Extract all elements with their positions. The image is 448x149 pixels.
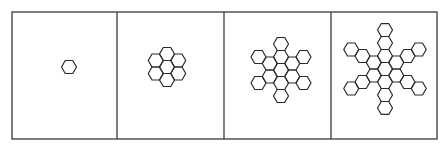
hexagon-cell <box>274 77 289 90</box>
hexagon-cell <box>411 82 426 95</box>
panel-stage-3 <box>251 38 311 103</box>
panel-stage-1 <box>62 61 77 74</box>
hexagon-cell <box>378 88 393 101</box>
hexagon-cell <box>160 74 175 87</box>
hexagon-cell <box>148 54 163 67</box>
hexagon-growth-figure <box>0 0 448 149</box>
panel-stage-2 <box>148 48 186 87</box>
hexagon-cell <box>296 77 311 90</box>
hexagon-cell <box>344 43 359 56</box>
hexagon-cell <box>411 43 426 56</box>
hexagon-cell <box>296 51 311 64</box>
panel-stage-4 <box>344 24 427 115</box>
hexagon-cell <box>344 82 359 95</box>
hexagon-cell <box>274 38 289 51</box>
hexagon-cell <box>378 24 393 37</box>
hexagon-cell <box>274 89 289 102</box>
hexagon-cell <box>62 61 77 74</box>
hexagon-cell <box>378 37 393 50</box>
hexagon-cell <box>378 76 393 89</box>
hexagon-cell <box>378 101 393 114</box>
hexagon-cell <box>251 77 266 90</box>
figure-canvas <box>0 0 448 149</box>
hexagon-cell <box>251 51 266 64</box>
